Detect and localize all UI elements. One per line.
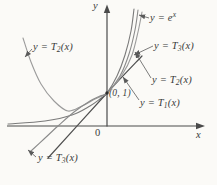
plot-svg bbox=[0, 0, 217, 185]
label-y-t2-right-leader-arrow bbox=[135, 52, 151, 78]
taylor-polynomials-figure: y = exy = T3(x)y = T2(x)y = T1(x)y = T2(… bbox=[0, 0, 217, 185]
curve-y-t3-x bbox=[31, 10, 138, 151]
label-y-t3-right-leader-arrow bbox=[134, 46, 153, 55]
label-y-t1-leader-arrow bbox=[123, 77, 139, 100]
curve-y-t2-x bbox=[23, 12, 142, 111]
point-0-1-dot bbox=[105, 91, 108, 94]
label-y-t3-bottom-leader-arrow bbox=[28, 150, 36, 157]
x-axis-arrowhead bbox=[196, 123, 205, 129]
curve-y-t1-x bbox=[48, 56, 142, 158]
curve-y-e-x bbox=[8, 9, 134, 124]
y-axis-arrowhead bbox=[104, 5, 110, 14]
